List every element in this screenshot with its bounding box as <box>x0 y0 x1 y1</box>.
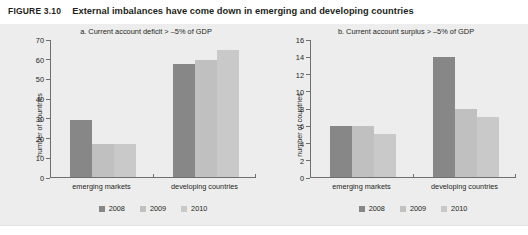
legend-item-2009[interactable]: 2009 <box>400 204 426 213</box>
bar-2010 <box>477 117 499 177</box>
bar-2010 <box>114 144 136 177</box>
legend-label: 2008 <box>369 204 385 213</box>
y-tick-mark <box>306 126 310 127</box>
y-tick-label: 14 <box>296 53 304 62</box>
bar-2010 <box>217 50 239 177</box>
y-tick-label: 6 <box>300 122 304 131</box>
y-tick-mark <box>306 160 310 161</box>
y-tick-mark <box>46 158 50 159</box>
bar-group <box>173 40 239 177</box>
chart-a-legend: 200820092010 <box>50 204 256 213</box>
y-tick-label: 0 <box>40 174 44 183</box>
legend-label: 2008 <box>109 204 125 213</box>
category-label: emerging markets <box>72 182 130 191</box>
y-tick-label: 4 <box>300 139 304 148</box>
legend-swatch-icon <box>140 206 146 212</box>
bar-2009 <box>455 109 477 178</box>
x-axis-end-cap <box>50 174 51 178</box>
figure-container: FIGURE 3.10 External imbalances have com… <box>0 0 528 235</box>
y-tick-mark <box>306 109 310 110</box>
chart-a-plot-area: 010203040506070 <box>50 40 256 178</box>
category-label: emerging markets <box>332 182 390 191</box>
legend-item-2010[interactable]: 2010 <box>441 204 467 213</box>
y-tick-mark <box>306 57 310 58</box>
bar-group <box>70 40 136 177</box>
bar-group <box>330 40 396 177</box>
legend-swatch-icon <box>441 206 447 212</box>
category-label: developing countries <box>171 182 238 191</box>
y-tick-label: 12 <box>296 70 304 79</box>
y-tick-label: 8 <box>300 105 304 114</box>
legend-label: 2009 <box>410 204 426 213</box>
x-axis-mid-tick <box>153 174 154 178</box>
figure-number: FIGURE 3.10 <box>8 6 61 16</box>
chart-a-subtitle: a. Current account deficit > –5% of GDP <box>6 27 264 36</box>
y-tick-label: 60 <box>36 55 44 64</box>
legend-label: 2009 <box>150 204 166 213</box>
y-tick-label: 70 <box>36 36 44 45</box>
chart-panel-b: b. Current account surplus > –5% of GDP … <box>266 24 524 226</box>
y-tick-mark <box>306 143 310 144</box>
y-tick-mark <box>46 79 50 80</box>
y-tick-mark <box>46 99 50 100</box>
y-tick-label: 20 <box>36 134 44 143</box>
y-tick-mark <box>46 118 50 119</box>
category-label: developing countries <box>431 182 498 191</box>
bar-group <box>433 40 499 177</box>
bar-2008 <box>173 64 195 178</box>
figure-title: External imbalances have come down in em… <box>72 6 413 16</box>
y-tick-mark <box>46 40 50 41</box>
chart-b-bars <box>311 40 516 177</box>
x-axis-end-cap <box>515 174 516 178</box>
bar-2009 <box>92 144 114 177</box>
legend-swatch-icon <box>359 206 365 212</box>
chart-a-bars <box>51 40 256 177</box>
bar-2008 <box>433 57 455 177</box>
bar-2010 <box>374 134 396 177</box>
y-tick-label: 50 <box>36 75 44 84</box>
bar-2009 <box>352 126 374 177</box>
legend-item-2010[interactable]: 2010 <box>181 204 207 213</box>
legend-swatch-icon <box>99 206 105 212</box>
x-axis-end-cap <box>255 174 256 178</box>
chart-b-plot-area: 0246810121416 <box>310 40 516 178</box>
bar-2009 <box>195 60 217 177</box>
chart-b-subtitle: b. Current account surplus > –5% of GDP <box>266 27 524 36</box>
charts-panel: a. Current account deficit > –5% of GDP … <box>0 24 528 226</box>
legend-item-2008[interactable]: 2008 <box>99 204 125 213</box>
y-tick-mark <box>46 138 50 139</box>
legend-item-2008[interactable]: 2008 <box>359 204 385 213</box>
legend-item-2009[interactable]: 2009 <box>140 204 166 213</box>
y-tick-label: 10 <box>36 154 44 163</box>
y-tick-label: 0 <box>300 174 304 183</box>
y-tick-mark <box>306 91 310 92</box>
chart-b-legend: 200820092010 <box>310 204 516 213</box>
legend-swatch-icon <box>400 206 406 212</box>
figure-title-row: FIGURE 3.10 External imbalances have com… <box>0 0 528 22</box>
y-tick-mark <box>306 40 310 41</box>
y-tick-label: 30 <box>36 114 44 123</box>
y-tick-label: 40 <box>36 95 44 104</box>
x-axis-mid-tick <box>413 174 414 178</box>
y-tick-label: 10 <box>296 87 304 96</box>
chart-panel-a: a. Current account deficit > –5% of GDP … <box>6 24 264 226</box>
x-axis-end-cap <box>310 174 311 178</box>
y-tick-label: 2 <box>300 156 304 165</box>
y-tick-mark <box>306 74 310 75</box>
legend-label: 2010 <box>191 204 207 213</box>
bar-2008 <box>70 120 92 177</box>
legend-swatch-icon <box>181 206 187 212</box>
legend-label: 2010 <box>451 204 467 213</box>
y-tick-label: 16 <box>296 36 304 45</box>
y-tick-mark <box>46 59 50 60</box>
bar-2008 <box>330 126 352 177</box>
